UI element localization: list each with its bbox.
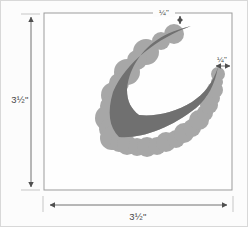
top-offset-label: ¼" [159,8,169,17]
pattern-diagram-page: 3½" 3½" ¼" ¼" [0,0,248,227]
right-offset-label: ¼" [217,55,227,64]
width-dimension [43,196,233,212]
pattern-diagram-canvas: 3½" 3½" ¼" ¼" [1,1,247,226]
height-dimension-label: 3½" [11,94,28,105]
width-dimension-label: 3½" [129,211,146,222]
